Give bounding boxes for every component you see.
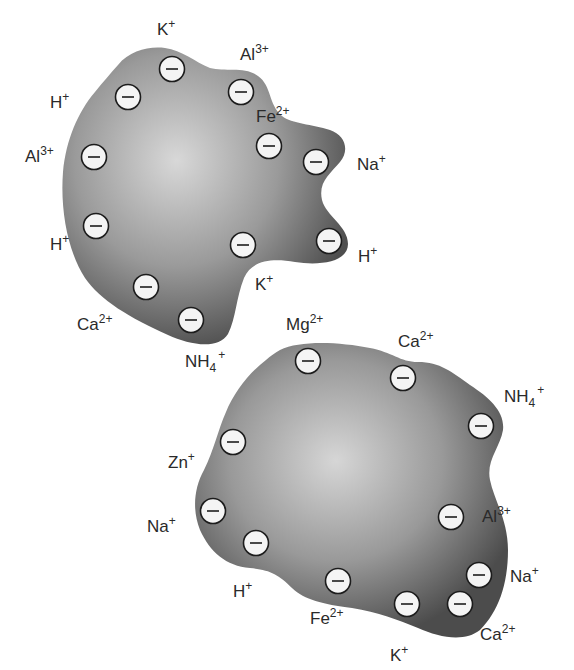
cation-charge: +	[401, 643, 408, 657]
negative-charge-icon	[134, 275, 159, 300]
cation-charge: +	[62, 90, 69, 104]
negative-charge-icon	[467, 563, 492, 588]
cation-charge: 2+	[420, 329, 434, 343]
cation-charge: +	[188, 450, 195, 464]
cation-symbol: Na	[510, 567, 532, 586]
cation-label: Al3+	[240, 42, 269, 64]
cation-label: H+	[50, 232, 69, 254]
negative-charge-icon	[257, 134, 282, 159]
negative-charge-icon	[160, 57, 185, 82]
cation-symbol: H	[358, 247, 370, 266]
cation-symbol: Al	[240, 45, 255, 64]
cation-symbol: Al	[482, 507, 497, 526]
cation-label: H+	[358, 244, 377, 266]
cation-charge: +	[266, 272, 273, 286]
cation-label: K+	[390, 643, 408, 665]
cation-subscript: 4	[210, 361, 217, 375]
negative-charge-icon	[179, 308, 204, 333]
cation-label: Ca2+	[77, 312, 112, 334]
cation-symbol: NH	[504, 387, 529, 406]
cation-charge: 2+	[330, 606, 344, 620]
cation-charge: 3+	[497, 504, 511, 518]
negative-charge-icon	[326, 569, 351, 594]
cation-charge: +	[370, 244, 377, 258]
cation-label: Ca2+	[398, 329, 433, 351]
negative-charge-icon	[448, 592, 473, 617]
clay-particle-diagram: K+Al3+H+Fe2+Al3+Na+H+H+K+Ca2+NH4+Mg2+Ca2…	[0, 0, 574, 670]
cation-charge: 2+	[310, 312, 324, 326]
negative-charge-icon	[439, 505, 464, 530]
cation-label: Fe2+	[310, 606, 344, 628]
negative-charge-icon	[221, 430, 246, 455]
cation-charge: +	[537, 383, 544, 397]
cation-charge: +	[218, 348, 225, 362]
cation-label: Ca2+	[480, 622, 515, 644]
cation-charge: 3+	[255, 42, 269, 56]
cation-symbol: Zn	[168, 453, 188, 472]
cation-symbol: Ca	[398, 332, 420, 351]
cation-symbol: Na	[357, 155, 379, 174]
negative-charge-icon	[231, 233, 256, 258]
negative-charge-icon	[116, 85, 141, 110]
negative-charge-icon	[395, 592, 420, 617]
cation-symbol: H	[50, 235, 62, 254]
cation-charge: +	[532, 564, 539, 578]
cation-charge: 3+	[40, 144, 54, 158]
cation-symbol: Na	[147, 517, 169, 536]
cation-symbol: Ca	[480, 625, 502, 644]
cation-label: Mg2+	[286, 312, 323, 334]
cation-label: Na+	[147, 514, 176, 536]
cation-symbol: H	[233, 582, 245, 601]
cation-symbol: K	[157, 20, 169, 39]
cation-charge: +	[62, 232, 69, 246]
cation-label: K+	[255, 272, 273, 294]
negative-charge-icon	[82, 145, 107, 170]
negative-charge-icon	[229, 80, 254, 105]
cation-label: H+	[50, 90, 69, 112]
negative-charge-icon	[317, 229, 342, 254]
negative-charge-icon	[469, 414, 494, 439]
cation-symbol: Ca	[77, 315, 99, 334]
cation-symbol: Al	[25, 147, 40, 166]
cation-charge: +	[245, 579, 252, 593]
cation-label: Zn+	[168, 450, 195, 472]
negative-charge-icon	[84, 214, 109, 239]
cation-symbol: K	[390, 646, 402, 665]
cation-label: NH4+	[185, 348, 225, 375]
negative-charge-icon	[296, 349, 321, 374]
cation-label: Al3+	[482, 504, 511, 526]
cation-symbol: K	[255, 275, 267, 294]
cation-charge: 2+	[99, 312, 113, 326]
negative-charge-icon	[391, 366, 416, 391]
cation-charge: 2+	[502, 622, 516, 636]
cation-label: Al3+	[25, 144, 54, 166]
cation-symbol: Fe	[310, 609, 330, 628]
cation-label: Na+	[510, 564, 539, 586]
cation-subscript: 4	[529, 396, 536, 410]
cation-label: H+	[233, 579, 252, 601]
cation-charge: 2+	[276, 104, 290, 118]
cation-charge: +	[169, 514, 176, 528]
cation-charge: +	[379, 152, 386, 166]
cation-symbol: Mg	[286, 315, 310, 334]
cation-symbol: Fe	[256, 107, 276, 126]
cation-label: NH4+	[504, 383, 544, 410]
negative-charge-icon	[201, 499, 226, 524]
cation-charge: +	[168, 17, 175, 31]
cation-symbol: H	[50, 93, 62, 112]
cation-label: Na+	[357, 152, 386, 174]
negative-charge-icon	[244, 531, 269, 556]
cation-symbol: NH	[185, 352, 210, 371]
cation-label: K+	[157, 17, 175, 39]
negative-charge-icon	[304, 150, 329, 175]
upper-clay-particle	[62, 48, 348, 345]
